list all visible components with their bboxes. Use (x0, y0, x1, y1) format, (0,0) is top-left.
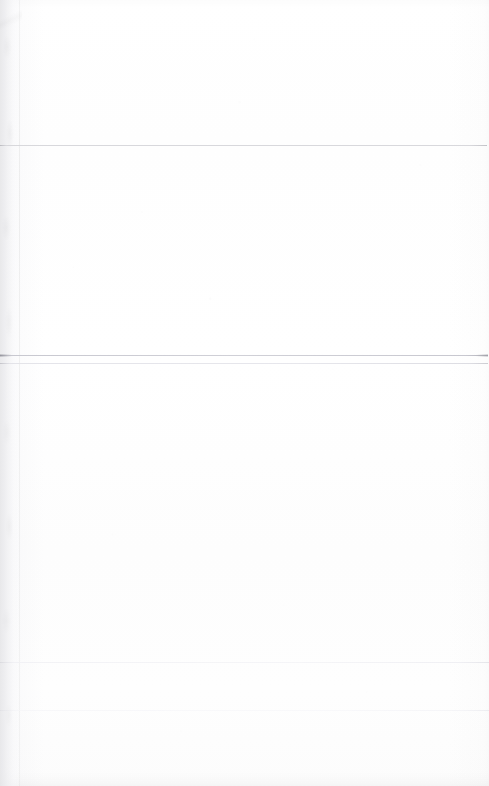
main-body-band (21, 364, 489, 662)
rule-upper (0, 145, 487, 146)
upper-body-band (21, 146, 489, 355)
scan-noise-layer (0, 0, 489, 786)
rule-middle-secondary (0, 363, 488, 364)
corner-crease-artifact (0, 0, 22, 40)
left-binding-edge (0, 0, 21, 786)
scanned-document-page (0, 0, 489, 786)
lower-body-band (21, 663, 489, 710)
rule-endcap-left (0, 354, 12, 357)
edge-texture (0, 0, 18, 786)
top-page-edge (0, 0, 489, 8)
rule-endcap-right (476, 354, 488, 357)
rule-middle-primary (0, 355, 488, 356)
rule-lower-faint (0, 662, 489, 663)
bottom-page-edge (0, 772, 489, 786)
header-band (21, 0, 489, 145)
paper-tone-layer (0, 0, 489, 786)
rule-bottom-faint (0, 710, 489, 711)
footer-band (21, 711, 489, 786)
